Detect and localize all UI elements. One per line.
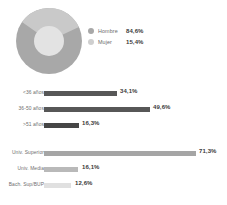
bar-row-age-over51: >51 años 16,3% <box>0 118 227 134</box>
bar-value-age-under36: 34,1% <box>120 88 138 94</box>
donut-hole <box>34 26 64 56</box>
legend-item-mujer: Mujer 15,4% <box>88 37 144 46</box>
bar-row-edu-bachillerato: Bach. Sup/BUP 12,6% <box>0 178 227 194</box>
bar-row-age-36to50: 36-50 años 49,6% <box>0 102 227 118</box>
legend-label-hombre: Hombre <box>98 28 126 34</box>
bar-track-edu-bachillerato <box>44 183 71 188</box>
education-bar-chart: Univ. Superior 71,3% Univ. Media 16,1% B… <box>0 146 227 194</box>
bar-row-edu-media: Univ. Media 16,1% <box>0 162 227 178</box>
bar-label-edu-media: Univ. Media <box>17 166 44 171</box>
bar-fill-edu-media <box>44 167 78 172</box>
bar-label-age-36to50: 36-50 años <box>19 106 44 111</box>
bar-track-edu-media <box>44 167 78 172</box>
gender-donut-section: Hombre 84,6% Mujer 15,4% <box>0 0 227 78</box>
bar-row-edu-superior: Univ. Superior 71,3% <box>0 146 227 162</box>
bar-fill-edu-superior <box>44 151 196 156</box>
bar-value-age-over51: 16,3% <box>82 120 100 126</box>
bar-track-age-over51 <box>44 123 79 128</box>
bar-label-age-under36: <36 años <box>23 90 44 95</box>
bar-value-edu-media: 16,1% <box>82 164 100 170</box>
gender-donut-chart <box>14 6 84 76</box>
legend-label-mujer: Mujer <box>98 39 126 45</box>
bar-value-edu-superior: 71,3% <box>199 148 217 154</box>
bar-row-age-under36: <36 años 34,1% <box>0 86 227 102</box>
bar-fill-age-under36 <box>44 91 117 96</box>
bar-label-edu-superior: Univ. Superior <box>12 150 44 155</box>
legend-value-mujer: 15,4% <box>126 39 144 45</box>
bar-track-age-36to50 <box>44 107 150 112</box>
bar-label-edu-bachillerato: Bach. Sup/BUP <box>9 182 44 187</box>
age-bar-chart: <36 años 34,1% 36-50 años 49,6% >51 años… <box>0 86 227 134</box>
bar-fill-age-over51 <box>44 123 79 128</box>
legend-item-hombre: Hombre 84,6% <box>88 26 144 35</box>
legend-value-hombre: 84,6% <box>126 28 144 34</box>
legend-dot-icon-hombre <box>88 28 94 34</box>
bar-track-age-under36 <box>44 91 117 96</box>
bar-value-edu-bachillerato: 12,6% <box>75 180 93 186</box>
bar-fill-edu-bachillerato <box>44 183 71 188</box>
bar-fill-age-36to50 <box>44 107 150 112</box>
legend-dot-icon-mujer <box>88 39 94 45</box>
donut-legend: Hombre 84,6% Mujer 15,4% <box>88 26 144 46</box>
bar-label-age-over51: >51 años <box>23 122 44 127</box>
bar-value-age-36to50: 49,6% <box>153 104 171 110</box>
bar-track-edu-superior <box>44 151 196 156</box>
